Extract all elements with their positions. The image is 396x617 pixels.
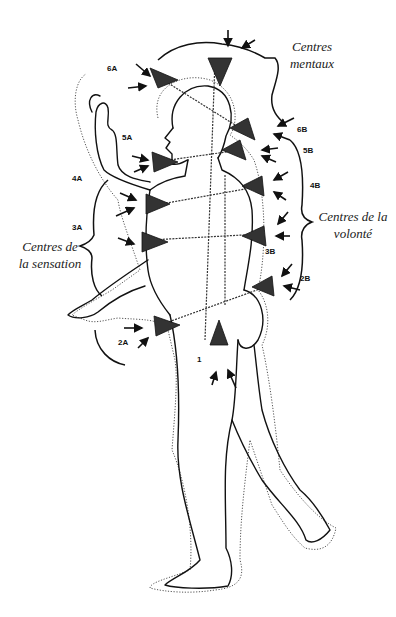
label-2B: 2B [300,275,310,283]
cone-6A [150,68,178,88]
cone-6B [230,118,255,140]
arrow-icon [262,148,278,150]
arrow-icon [136,64,150,76]
label-5B: 5B [303,147,313,155]
arrow-icon [282,264,292,276]
cone-1 [210,320,228,345]
label-2A: 2A [118,339,128,347]
lower-sensation-brace [95,330,125,365]
arrow-icon [134,166,148,172]
label-3B: 3B [265,248,275,256]
label-4A: 4A [72,175,82,183]
cone-5A [152,152,178,172]
label-4B: 4B [310,182,320,190]
group-label-sensation: Centres de la sensation [10,238,90,272]
human-body-outline [68,86,330,588]
cone-3B [242,226,266,246]
cone-3A [142,232,168,252]
group-label-mental: Centres mentaux [276,38,348,72]
label-6A: 6A [107,65,117,73]
cone-4A [146,194,170,214]
arrow-icon [132,156,148,160]
arrow-icon [212,372,216,385]
label-6B: 6B [297,126,307,134]
arrow-icon [228,370,236,388]
cone-5B [222,140,246,160]
cone-4B [242,176,264,196]
arrow-icon [116,208,134,216]
cone-2B [252,276,274,296]
group-braces [80,43,312,365]
group-label-will: Centres de la volonté [312,208,394,242]
arrow-icon [128,86,146,88]
arrow-icon [118,238,134,244]
arrow-icon [138,338,148,348]
label-5A: 5A [122,134,132,142]
energy-centre-cones [142,58,274,345]
arrow-icon [120,193,136,200]
cone-crown [208,58,232,86]
label-3A: 3A [72,224,82,232]
arrow-icon [274,192,286,200]
aura-outline [72,74,336,592]
arrow-icon [274,134,290,140]
arrow-icon [262,156,276,162]
label-1: 1 [197,356,201,364]
arrow-icon [274,172,288,180]
arrow-icon [242,40,255,48]
energy-arrows [116,30,300,388]
arrow-icon [278,212,288,224]
energy-centres-illustration [0,0,396,617]
